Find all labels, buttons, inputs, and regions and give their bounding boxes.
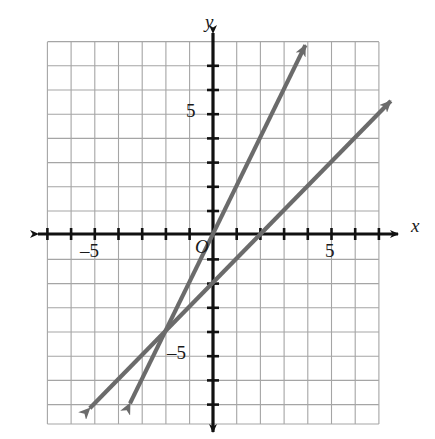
line-shallow [90,101,391,408]
coordinate-plane-svg [0,0,435,439]
y-tick-label-minus5: –5 [167,342,186,364]
y-axis-label: y [205,11,213,33]
origin-label: O [195,236,209,258]
x-tick-label-5: 5 [325,240,335,262]
line-steep [130,45,305,403]
graph-figure: y x O 5 –5 5 –5 [0,0,435,439]
x-axis-label: x [411,215,419,237]
plotted-lines [90,45,391,408]
axes [38,33,398,432]
x-tick-label-minus5: –5 [80,240,99,262]
y-tick-label-5: 5 [186,100,196,122]
